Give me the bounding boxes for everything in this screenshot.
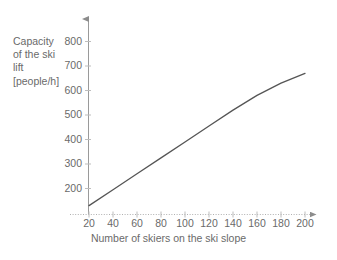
y-tick-label: 200 [52,182,82,194]
x-tick-label: 200 [290,217,320,229]
y-tick-label: 500 [52,108,82,120]
y-tick-label: 800 [52,35,82,47]
y-tick-label: 400 [52,133,82,145]
y-tick-label: 700 [52,59,82,71]
x-axis-title: Number of skiers on the ski slope [0,232,337,244]
chart-figure: Capacity of the ski lift [people/h] 2003… [0,0,337,260]
capacity-line-series [89,73,305,205]
y-tick-label: 600 [52,84,82,96]
y-tick-label: 300 [52,157,82,169]
